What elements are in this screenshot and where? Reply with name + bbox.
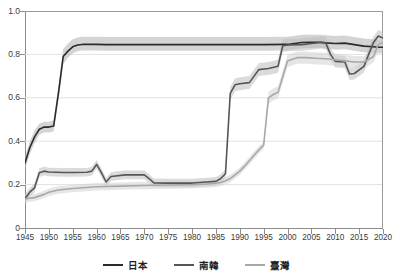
y-tick-mark [20, 98, 25, 99]
legend-line-swatch [103, 264, 123, 267]
x-tick-mark [97, 229, 98, 234]
x-tick-mark [120, 229, 121, 234]
y-tick-text: 0.4 [0, 137, 20, 145]
x-tick-label: 1955 [60, 233, 86, 243]
y-tick-mark [20, 11, 25, 12]
x-tick-mark [383, 229, 384, 234]
x-tick-mark [144, 229, 145, 234]
legend-item-1[interactable]: 日本 [103, 260, 148, 271]
x-tick-label: 1960 [84, 233, 110, 243]
plot-area [25, 11, 383, 228]
legend-line-swatch [174, 264, 194, 267]
legend-item-3[interactable]: 臺灣 [245, 260, 290, 271]
y-tick-text: 0.8 [0, 50, 20, 58]
x-tick-mark [240, 229, 241, 234]
x-tick-mark [335, 229, 336, 234]
x-tick-label: 2020 [370, 233, 396, 243]
confidence-band-臺灣 [25, 36, 383, 202]
x-tick-label: 2000 [275, 233, 301, 243]
x-tick-mark [73, 229, 74, 234]
series-svg [25, 11, 383, 228]
x-tick-label: 1990 [227, 233, 253, 243]
x-tick-mark [216, 229, 217, 234]
x-tick-label: 1980 [179, 233, 205, 243]
y-tick-text: 0 [0, 224, 20, 232]
legend-label: 日本 [128, 260, 148, 271]
x-axis-line [25, 228, 383, 229]
x-tick-label: 1975 [155, 233, 181, 243]
x-tick-label: 1950 [36, 233, 62, 243]
x-tick-label: 1985 [203, 233, 229, 243]
x-tick-mark [311, 229, 312, 234]
x-tick-label: 2005 [298, 233, 324, 243]
x-tick-mark [192, 229, 193, 234]
y-tick-mark [20, 185, 25, 186]
y-axis-labels: 00.20.40.60.81.0 [0, 0, 20, 240]
y-tick-mark [20, 141, 25, 142]
legend-label: 臺灣 [270, 260, 290, 271]
x-tick-mark [25, 229, 26, 234]
chart-title [0, 0, 392, 1]
x-tick-label: 1965 [107, 233, 133, 243]
x-tick-label: 2015 [346, 233, 372, 243]
y-tick-text: 1.0 [0, 7, 20, 15]
x-tick-label: 1945 [12, 233, 38, 243]
y-tick-mark [20, 54, 25, 55]
x-tick-mark [49, 229, 50, 234]
legend-line-swatch [245, 264, 265, 267]
legend-label: 南韓 [199, 260, 219, 271]
x-tick-label: 1970 [131, 233, 157, 243]
legend: 日本南韓臺灣 [0, 256, 392, 274]
y-tick-text: 0.6 [0, 93, 20, 101]
x-tick-mark [264, 229, 265, 234]
x-tick-mark [359, 229, 360, 234]
y-tick-text: 0.2 [0, 180, 20, 188]
legend-item-2[interactable]: 南韓 [174, 260, 219, 271]
x-tick-mark [168, 229, 169, 234]
x-tick-label: 1995 [251, 233, 277, 243]
x-tick-mark [288, 229, 289, 234]
x-tick-label: 2010 [322, 233, 348, 243]
